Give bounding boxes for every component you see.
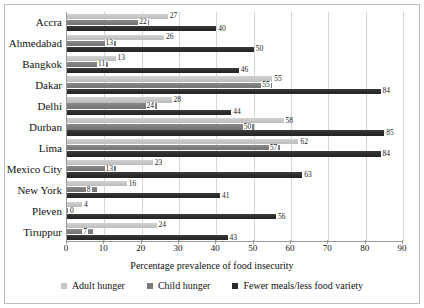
bar-value-label: 41 xyxy=(222,192,230,200)
bar-adult-hunger[interactable] xyxy=(67,139,298,144)
bar-value-label: 13 xyxy=(118,54,126,62)
bar-value-label: 23 xyxy=(155,159,163,167)
bar-fewer-meals[interactable] xyxy=(67,214,276,219)
bar-value-label: 85 xyxy=(386,129,394,137)
bar-value-label: 26 xyxy=(166,34,174,42)
legend-label: Fewer meals/less food variety xyxy=(243,281,363,291)
bar-value-label: 55 xyxy=(274,75,282,83)
x-tick-label: 80 xyxy=(360,244,369,253)
bar-child-hunger[interactable] xyxy=(67,187,97,192)
bar-value-label: 63 xyxy=(304,171,312,179)
x-axis-ticks: 0102030405060708090 xyxy=(66,244,402,258)
bar-child-hunger[interactable] xyxy=(67,229,93,234)
x-tick-label: 90 xyxy=(398,244,407,253)
bar-row: Mexico City231363 xyxy=(67,158,402,179)
bar-fewer-meals[interactable] xyxy=(67,110,231,115)
bar-value-label: 58 xyxy=(286,117,294,125)
bar-fewer-meals[interactable] xyxy=(67,130,384,135)
x-tick-label: 0 xyxy=(64,244,69,253)
bar-row: Dakar555584 xyxy=(67,75,402,96)
bar-adult-hunger[interactable] xyxy=(67,14,168,19)
bar-row: Durban585085 xyxy=(67,117,402,138)
bar-value-label: 84 xyxy=(383,150,391,158)
bar-adult-hunger[interactable] xyxy=(67,35,164,40)
category-label: Durban xyxy=(29,121,62,132)
category-label: Accra xyxy=(36,17,62,28)
bar-row: Lima625784 xyxy=(67,137,402,158)
bar-child-hunger[interactable] xyxy=(67,145,280,150)
x-tick-label: 30 xyxy=(174,244,183,253)
legend-swatch-icon xyxy=(147,283,153,289)
x-tick-label: 10 xyxy=(99,244,108,253)
bar-adult-hunger[interactable] xyxy=(67,223,157,228)
legend-item[interactable]: Child hunger xyxy=(147,281,211,291)
category-label: Delhi xyxy=(38,101,62,112)
legend-item[interactable]: Fewer meals/less food variety xyxy=(232,281,363,291)
category-label: Dakar xyxy=(35,80,62,91)
plot-area: Accra272240Ahmedabad261350Bangkok131146D… xyxy=(66,12,402,242)
bar-value-label: 62 xyxy=(300,138,308,146)
x-tick-label: 20 xyxy=(136,244,145,253)
bar-value-label: 50 xyxy=(256,46,264,54)
bar-adult-hunger[interactable] xyxy=(67,97,172,102)
bar-fewer-meals[interactable] xyxy=(67,172,302,177)
bar-value-label: 40 xyxy=(218,25,226,33)
bar-row: New York16841 xyxy=(67,179,402,200)
legend-swatch-icon xyxy=(61,283,67,289)
bar-value-label: 56 xyxy=(278,213,286,221)
bar-row: Accra272240 xyxy=(67,12,402,33)
bar-row: Tiruppur24743 xyxy=(67,221,402,242)
legend-label: Child hunger xyxy=(158,281,211,291)
bar-value-label: 44 xyxy=(233,108,241,116)
category-label: Ahmedabad xyxy=(9,38,62,49)
bar-child-hunger[interactable] xyxy=(67,208,68,213)
category-label: Mexico City xyxy=(7,163,62,174)
bar-fewer-meals[interactable] xyxy=(67,89,381,94)
bar-value-label: 4 xyxy=(84,201,88,209)
legend-swatch-icon xyxy=(232,283,238,289)
bar-value-label: 28 xyxy=(174,96,182,104)
legend-item[interactable]: Adult hunger xyxy=(61,281,125,291)
bar-child-hunger[interactable] xyxy=(67,103,157,108)
bar-child-hunger[interactable] xyxy=(67,83,272,88)
bar-child-hunger[interactable] xyxy=(67,124,254,129)
bar-value-label: 43 xyxy=(230,234,238,242)
x-tick-label: 50 xyxy=(248,244,257,253)
bar-value-label: 46 xyxy=(241,67,249,75)
chart-legend: Adult hungerChild hungerFewer meals/less… xyxy=(0,281,424,291)
bar-child-hunger[interactable] xyxy=(67,20,149,25)
x-tick-label: 60 xyxy=(286,244,295,253)
category-label: New York xyxy=(17,184,62,195)
bar-fewer-meals[interactable] xyxy=(67,193,220,198)
bar-fewer-meals[interactable] xyxy=(67,68,239,73)
bar-value-label: 24 xyxy=(159,222,167,230)
bar-row: Delhi282444 xyxy=(67,96,402,117)
bar-rows: Accra272240Ahmedabad261350Bangkok131146D… xyxy=(67,12,402,241)
bar-row: Ahmedabad261350 xyxy=(67,33,402,54)
x-tick-label: 70 xyxy=(323,244,332,253)
category-label: Bangkok xyxy=(22,59,62,70)
bar-row: Pleven4056 xyxy=(67,200,402,221)
category-label: Tiruppur xyxy=(23,226,62,237)
bar-fewer-meals[interactable] xyxy=(67,235,228,240)
chart-container: Accra272240Ahmedabad261350Bangkok131146D… xyxy=(0,0,424,308)
bar-fewer-meals[interactable] xyxy=(67,26,216,31)
x-tick-label: 40 xyxy=(211,244,220,253)
bar-fewer-meals[interactable] xyxy=(67,47,254,52)
bar-adult-hunger[interactable] xyxy=(67,56,116,61)
bar-value-label: 27 xyxy=(170,13,178,21)
category-label: Pleven xyxy=(32,205,62,216)
legend-label: Adult hunger xyxy=(72,281,125,291)
bar-adult-hunger[interactable] xyxy=(67,181,127,186)
x-axis-title: Percentage prevalence of food insecurity xyxy=(0,261,424,271)
bar-value-label: 16 xyxy=(129,180,137,188)
bar-row: Bangkok131146 xyxy=(67,54,402,75)
bar-fewer-meals[interactable] xyxy=(67,151,381,156)
bar-adult-hunger[interactable] xyxy=(67,76,272,81)
category-label: Lima xyxy=(39,142,62,153)
bar-value-label: 84 xyxy=(383,88,391,96)
